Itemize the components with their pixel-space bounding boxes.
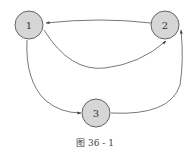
node-2: 2 [151,11,179,39]
node-label: 1 [26,20,32,31]
edge-1-to-2 [44,30,166,68]
node-3: 3 [82,99,110,127]
edge-3-to-2 [111,30,182,113]
node-label: 2 [162,20,168,31]
directed-graph: 1 2 3 图 36 - 1 [0,0,195,153]
edge-2-to-1 [46,20,151,23]
edge-1-to-3 [27,40,81,113]
figure-caption: 图 36 - 1 [76,138,114,148]
node-1: 1 [15,11,43,39]
node-label: 3 [93,108,99,119]
